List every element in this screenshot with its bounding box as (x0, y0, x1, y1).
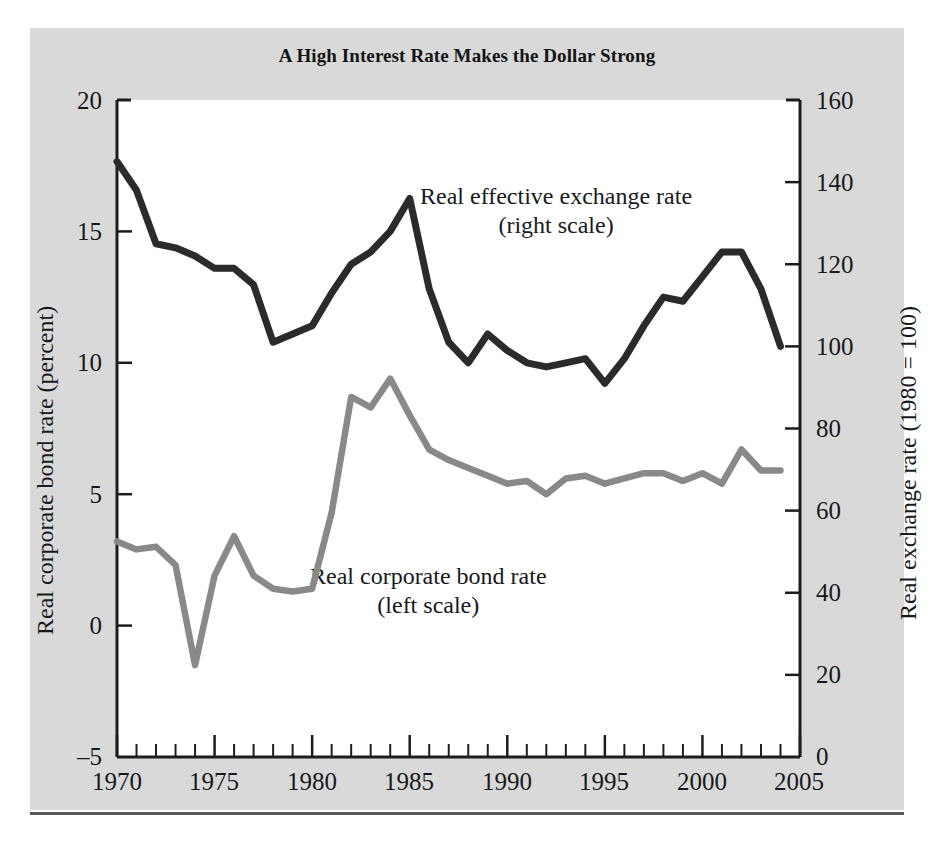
plot-svg (0, 0, 934, 852)
series-line-right (117, 162, 780, 384)
axis-frame (117, 100, 800, 757)
figure-page: A High Interest Rate Makes the Dollar St… (0, 0, 934, 852)
series-line-left (117, 379, 780, 665)
series-lines (117, 162, 780, 665)
